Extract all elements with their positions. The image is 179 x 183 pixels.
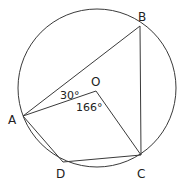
label-d: D: [56, 167, 65, 181]
label-c: C: [137, 167, 145, 181]
label-o: O: [91, 75, 100, 89]
segment-oc: [96, 91, 141, 155]
label-a: A: [8, 113, 17, 127]
segment-ad: [23, 116, 63, 162]
segment-dc: [63, 155, 141, 162]
segment-bc: [140, 26, 141, 155]
geometry-diagram: B A O C D 30° 166°: [0, 0, 179, 183]
label-b: B: [138, 10, 146, 24]
angle-aoc-label: 166°: [76, 101, 103, 114]
